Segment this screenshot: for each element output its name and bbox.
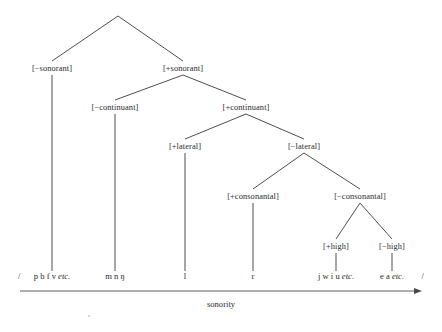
node-minus-sonorant: [−sonorant] [32,64,72,73]
sonority-tree-diagram: [−sonorant] [+sonorant] [−continuant] [+… [0,0,442,332]
node-labels: [−sonorant] [+sonorant] [−continuant] [+… [32,64,405,251]
branch-minus-lateral-to-minus-consonantal [304,153,360,189]
leaf-etc: etc. [392,271,404,281]
leaf-label-lateral: l [184,271,187,281]
leaf-segments: r [252,271,255,281]
branch-root-to-minus-sonorant [52,16,118,61]
node-minus-continuant: [−continuant] [92,103,139,112]
branch-minus-lateral-to-plus-consonantal [253,153,304,189]
close-slash: / [422,271,425,281]
node-minus-consonantal: [−consonantal] [334,192,386,201]
branch-root-to-plus-sonorant [118,16,183,61]
node-minus-lateral: [−lateral] [288,142,320,151]
node-plus-continuant: [+continuant] [223,103,270,112]
leaf-segments: p b f v [34,271,57,281]
leaf-label-rhotic: r [252,271,255,281]
axis-caption: sonority [207,299,236,309]
node-plus-high: [+high] [323,242,349,251]
leaf-segments: e a [380,271,390,281]
leaf-row: p b f v etc.m n ŋlrj w i u etc.e a etc. [34,271,404,281]
scan-speck [88,315,90,317]
branch-minus-consonantal-to-plus-high [336,203,360,239]
node-plus-sonorant: [+sonorant] [163,64,203,73]
branch-plus-sonorant-to-minus-continuant [115,75,183,100]
node-minus-high: [−high] [379,242,405,251]
leaf-segments: j w i u [317,271,340,281]
branch-plus-continuant-to-plus-lateral [185,114,246,139]
branch-plus-continuant-to-minus-lateral [246,114,304,139]
leaf-etc: etc. [58,271,70,281]
branch-lines [52,16,392,239]
open-slash: / [18,271,21,281]
leaf-label-high-vocoids: j w i u etc. [317,271,354,281]
leaf-label-obstruents: p b f v etc. [34,271,71,281]
leaf-segments: m n ŋ [105,271,125,281]
tree-canvas: [−sonorant] [+sonorant] [−continuant] [+… [0,0,442,332]
node-plus-lateral: [+lateral] [169,142,201,151]
branch-minus-consonantal-to-minus-high [360,203,392,239]
axis-arrowhead-icon [414,288,422,294]
leaf-segments: l [184,271,187,281]
sonority-axis: sonority [20,288,422,309]
leaf-label-nasals: m n ŋ [105,271,125,281]
leaf-label-nonhigh-vowels: e a etc. [380,271,404,281]
leaf-etc: etc. [342,271,354,281]
node-plus-consonantal: [+consonantal] [227,192,279,201]
branch-plus-sonorant-to-plus-continuant [183,75,246,100]
